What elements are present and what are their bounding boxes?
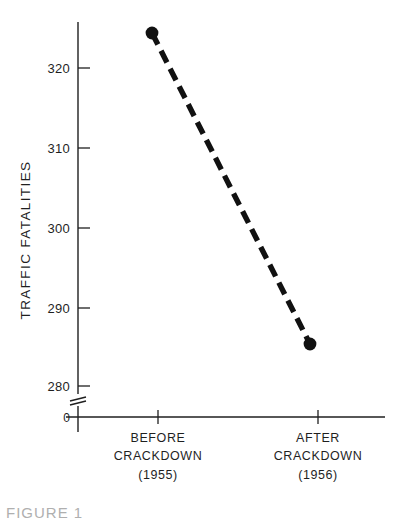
- y-axis-title: TRAFFIC FATALITIES: [18, 161, 33, 320]
- data-point-after: [304, 338, 317, 351]
- x-category-label-after-line3: (1956): [298, 468, 338, 482]
- y-tick-label-300: 300: [47, 221, 70, 236]
- x-category-label-before-line1: BEFORE: [131, 431, 186, 445]
- y-tick-label-320: 320: [47, 61, 70, 76]
- data-point-before: [146, 27, 159, 40]
- chart-figure: 320 310 300 290 280 0 TRAFFIC FATALITIES…: [0, 0, 408, 518]
- y-tick-label-310: 310: [47, 141, 70, 156]
- y-axis-zero-label: 0: [63, 411, 70, 425]
- y-tick-label-280: 280: [47, 379, 70, 394]
- x-category-label-after-line2: CRACKDOWN: [274, 449, 363, 463]
- figure-caption: FIGURE 1: [6, 504, 83, 518]
- x-category-label-before-line2: CRACKDOWN: [114, 449, 203, 463]
- y-tick-label-290: 290: [47, 301, 70, 316]
- chart-plot-area: 320 310 300 290 280 0 TRAFFIC FATALITIES…: [0, 0, 408, 518]
- data-line-segment: [152, 33, 310, 344]
- axis-break-icon-2: [70, 401, 86, 405]
- x-category-label-before-line3: (1955): [138, 468, 178, 482]
- x-category-label-after-line1: AFTER: [296, 431, 340, 445]
- axis-break-icon: [70, 397, 86, 401]
